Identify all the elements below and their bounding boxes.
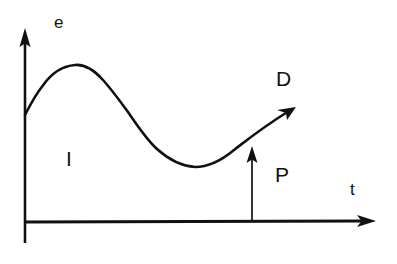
x-axis-line [25,221,362,222]
error-curve-path [25,65,289,167]
x-axis-label: t [350,181,355,198]
derivative-label: D [276,68,291,89]
diagram-svg [0,0,397,264]
figure-canvas: e t D P I [0,0,397,264]
y-axis-label: e [54,14,63,31]
y-axis [20,28,31,243]
proportional-arrow [247,146,258,222]
integral-label: I [66,148,72,169]
proportional-label: P [275,164,289,185]
x-axis [25,215,376,227]
